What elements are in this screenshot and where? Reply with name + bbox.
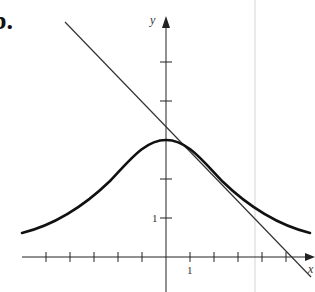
graph: y x 1 1: [0, 0, 315, 292]
x-axis-arrow-icon: [305, 253, 315, 261]
y-tick-label-1: 1: [152, 212, 158, 224]
tangent-line: [65, 22, 311, 277]
x-axis-label: x: [307, 262, 314, 276]
y-axis: [160, 16, 172, 292]
y-axis-label: y: [149, 13, 156, 27]
x-axis: [22, 252, 315, 262]
y-axis-arrow-icon: [162, 16, 170, 28]
x-tick-label-1: 1: [187, 264, 193, 276]
